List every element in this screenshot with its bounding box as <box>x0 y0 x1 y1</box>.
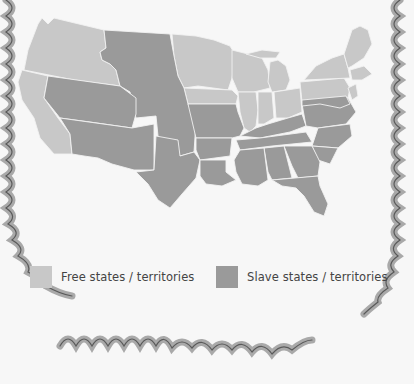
free-swatch-icon <box>30 266 52 288</box>
legend-item-slave: Slave states / territories <box>216 266 388 288</box>
map-stage: Free states / territories Slave states /… <box>0 0 414 384</box>
legend-label-slave: Slave states / territories <box>247 270 388 284</box>
slave-swatch-icon <box>216 266 238 288</box>
legend-label-free: Free states / territories <box>61 270 194 284</box>
us-map <box>0 0 414 384</box>
legend-item-free: Free states / territories <box>30 266 194 288</box>
